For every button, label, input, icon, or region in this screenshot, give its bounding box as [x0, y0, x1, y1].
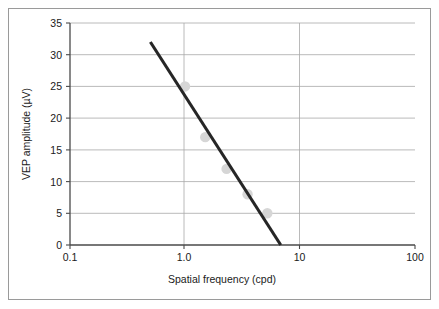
y-tick-label: 25	[50, 80, 62, 92]
y-tick-label: 35	[50, 17, 62, 29]
x-tick-label: 100	[406, 251, 424, 263]
x-tick-label: 1.0	[177, 251, 192, 263]
x-tick-labels: 0.1 1.0 10 100	[63, 251, 424, 263]
y-tick-label: 20	[50, 112, 62, 124]
y-tick-label: 5	[56, 207, 62, 219]
y-axis-title: VEP amplitude (µV)	[20, 88, 32, 180]
y-tick-label: 10	[50, 176, 62, 188]
x-tick-label: 10	[294, 251, 306, 263]
y-tick-label: 15	[50, 144, 62, 156]
vep-amplitude-chart: 35 30 25 20 15 10 5 0 0.1 1.0 10 100 Spa…	[0, 0, 439, 309]
plot-area-background	[70, 23, 415, 245]
x-axis-title: Spatial frequency (cpd)	[168, 273, 276, 285]
y-tick-label: 0	[56, 239, 62, 251]
x-tick-label: 0.1	[63, 251, 78, 263]
y-tick-label: 30	[50, 49, 62, 61]
figure-container: 35 30 25 20 15 10 5 0 0.1 1.0 10 100 Spa…	[0, 0, 439, 309]
y-tick-labels: 35 30 25 20 15 10 5 0	[50, 17, 62, 251]
